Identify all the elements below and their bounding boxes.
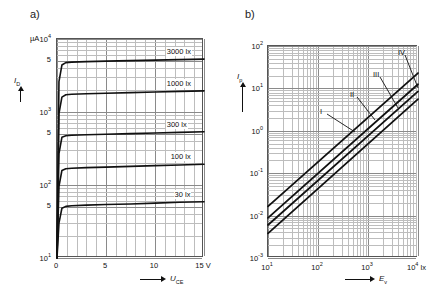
x-axis-title-b-sub: v [384,279,387,285]
roman-label-IV: IV [398,48,405,57]
curves-a [57,39,204,258]
y-tick-a-4: 102 [35,179,51,190]
x-tick-a-2: 10 [146,261,162,270]
panel-a: a) µA ID 104510351025101 051015 V 3000 l… [0,0,220,307]
x-tick-b-0: 101 [257,261,277,272]
x-tick-a-0: 0 [48,261,64,270]
x-axis-arrow-a [161,276,166,282]
curve-100-lx [57,164,204,258]
curves-b [268,46,418,258]
y-tick-b-4: 10-2 [245,210,263,221]
plot-area-b [267,45,417,257]
y-tick-b-3: 10-1 [245,167,263,178]
y-axis-arrow-stem-a [20,90,21,102]
y-tick-b-2: 100 [245,125,263,136]
y-tick-b-1: 101 [245,82,263,93]
curve-ii [268,84,418,218]
curve-label-a-4: 30 lx [174,190,192,199]
gridline-horizontal-a [57,258,202,259]
x-axis-title-a-sub: CE [176,279,184,285]
x-tick-b-2: 103 [357,261,377,272]
roman-label-I: I [320,107,322,116]
panel-b: b) Ip 10210110010-110-210-3 101102103104… [220,0,440,307]
roman-label-II: II [350,90,354,99]
curve-label-a-2: 300 lx [166,120,188,129]
y-axis-arrow-stem-b [242,86,243,112]
gridline-horizontal-b [268,258,416,259]
x-tick-a-1: 5 [97,261,113,270]
curve-label-a-3: 100 lx [170,152,192,161]
curve-1000-lx [57,91,204,258]
curve-label-a-0: 3000 lx [166,47,192,56]
x-tick-b-1: 102 [307,261,327,272]
y-tick-a-2: 103 [35,106,51,117]
x-tick-b-3: 104 lx [407,261,433,272]
y-axis-arrow-a [18,86,24,91]
y-axis-title-a: ID [14,76,20,87]
x-axis-arrow-stem-a [140,279,162,280]
y-tick-b-0: 102 [245,40,263,51]
curve-i [268,73,418,206]
y-tick-a-5: 5 [45,201,51,210]
panel-b-label: b) [245,8,255,20]
y-tick-a-0: 104 [35,33,51,44]
y-axis-title-b: Ip [237,72,242,83]
x-axis-arrow-b [370,276,375,282]
y-tick-a-1: 5 [45,55,51,64]
x-axis-title-b: Ev [379,274,387,285]
gridline-vertical-a [204,39,205,256]
roman-label-III: III [373,70,379,79]
curve-iv [268,99,418,233]
curve-iii [268,91,418,225]
x-tick-a-3: 15 V [195,261,211,270]
curve-30-lx [57,202,204,258]
y-tick-a-3: 5 [45,128,51,137]
x-axis-title-a: UCE [170,274,183,285]
gridline-vertical-b [418,46,419,256]
panel-a-label: a) [30,8,40,20]
plot-area-a [56,38,203,257]
curve-label-a-1: 1000 lx [166,79,192,88]
x-axis-arrow-stem-b [345,279,371,280]
